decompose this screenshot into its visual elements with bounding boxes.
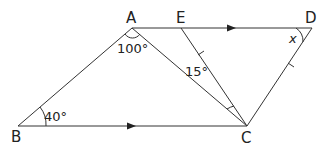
angle-arc-d bbox=[296, 28, 303, 42]
point-label-a: A bbox=[126, 9, 137, 27]
equal-tick-icon bbox=[198, 51, 204, 55]
angle-label-b: 40° bbox=[44, 109, 67, 124]
parallel-arrow-icon bbox=[227, 25, 236, 32]
angle-label-a: 100° bbox=[117, 41, 148, 56]
angle-label-d: x bbox=[288, 31, 297, 46]
point-label-b: B bbox=[11, 128, 21, 146]
point-label-e: E bbox=[176, 9, 185, 27]
angle-arc-c bbox=[227, 106, 234, 109]
angle-arc-a bbox=[125, 34, 140, 38]
parallel-arrow-icon bbox=[127, 123, 136, 130]
geometry-diagram: A E D B C 100° 40° 15° x bbox=[0, 0, 335, 149]
point-label-d: D bbox=[305, 9, 317, 27]
point-label-c: C bbox=[241, 129, 251, 147]
equal-tick-icon bbox=[288, 63, 294, 67]
segment-dc bbox=[247, 28, 312, 126]
angle-label-ace: 15° bbox=[185, 64, 208, 79]
segment-ab bbox=[18, 28, 132, 126]
